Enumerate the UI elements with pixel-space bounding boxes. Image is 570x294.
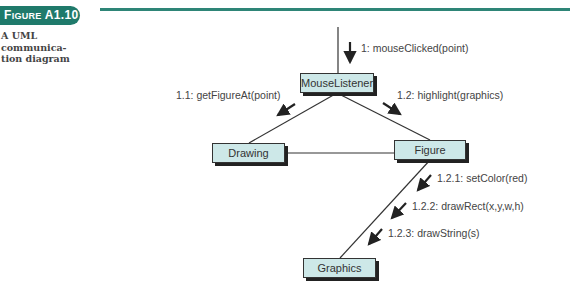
message-label-1-2: 1.2: highlight(graphics) xyxy=(397,89,503,101)
message-label-1-2-2: 1.2.2: drawRect(x,y,w,h) xyxy=(412,200,524,212)
arrow-m1-2 xyxy=(383,103,400,114)
message-label-1: 1: mouseClicked(point) xyxy=(361,42,468,54)
object-graphics: Graphics xyxy=(303,258,376,278)
arrow-m1-2-3 xyxy=(369,229,382,244)
message-label-1-2-1: 1.2.1: setColor(red) xyxy=(437,172,527,184)
arrow-m1-2-1 xyxy=(418,175,431,190)
object-mouse-listener: MouseListener xyxy=(300,73,374,93)
arrow-m1-2-2 xyxy=(392,203,406,218)
message-label-1-2-3: 1.2.3: drawString(s) xyxy=(388,227,480,239)
object-drawing: Drawing xyxy=(212,143,285,163)
arrow-m1-1 xyxy=(278,104,295,115)
message-label-1-1: 1.1: getFigureAt(point) xyxy=(176,89,280,101)
object-figure: Figure xyxy=(394,140,466,160)
diagram-links xyxy=(0,0,570,294)
